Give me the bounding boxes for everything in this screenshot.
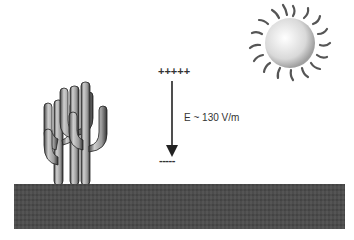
positive-charges-label: +++++ (158, 65, 190, 77)
sun-icon (250, 5, 330, 80)
field-strength-label: E ~ 130 V/m (184, 112, 239, 123)
negative-charges-label: ----- (159, 154, 175, 166)
field-arrow (166, 81, 178, 157)
ground (14, 184, 345, 229)
cactus-icon (44, 82, 107, 185)
